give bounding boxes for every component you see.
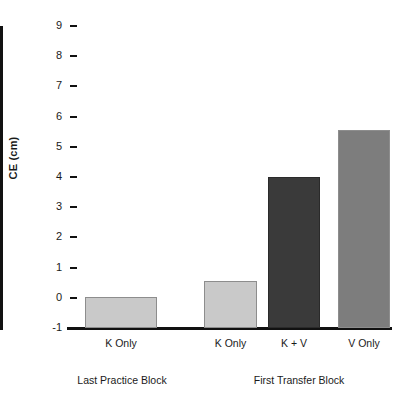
y-tick-label-1: 1	[36, 262, 62, 273]
y-tick-label-6: 6	[36, 111, 62, 122]
y-tick-mark-8	[70, 55, 77, 57]
bar-2	[268, 177, 320, 328]
y-tick-mark-3	[70, 206, 77, 208]
bar-0	[85, 297, 157, 328]
y-tick-label-neg1: -1	[36, 322, 62, 333]
y-tick-label-5: 5	[36, 141, 62, 152]
y-tick-label-4: 4	[36, 171, 62, 182]
y-tick-mark-0	[70, 297, 77, 299]
y-tick-mark-9	[70, 25, 77, 27]
y-tick-mark-neg1	[70, 327, 77, 329]
y-tick-mark-6	[70, 116, 77, 118]
x-tick-label-0: K Only	[65, 337, 177, 349]
x-tick-label-3: V Only	[318, 337, 410, 349]
y-tick-label-7: 7	[36, 80, 62, 91]
bar-chart: CE (cm) 9876543210-1 K OnlyK OnlyK + VV …	[0, 0, 415, 400]
y-axis-line	[0, 26, 3, 330]
bar-3	[338, 130, 390, 328]
y-tick-mark-4	[70, 176, 77, 178]
group-label-1: First Transfer Block	[200, 374, 398, 386]
bar-1	[204, 281, 257, 328]
y-tick-mark-2	[70, 236, 77, 238]
y-tick-label-2: 2	[36, 231, 62, 242]
y-axis-title: CE (cm)	[7, 123, 19, 193]
group-label-0: Last Practice Block	[46, 374, 198, 386]
y-tick-label-0: 0	[36, 292, 62, 303]
y-tick-mark-5	[70, 146, 77, 148]
y-tick-label-3: 3	[36, 201, 62, 212]
y-tick-label-9: 9	[36, 20, 62, 31]
y-tick-mark-7	[70, 85, 77, 87]
y-tick-label-8: 8	[36, 50, 62, 61]
y-tick-mark-1	[70, 267, 77, 269]
